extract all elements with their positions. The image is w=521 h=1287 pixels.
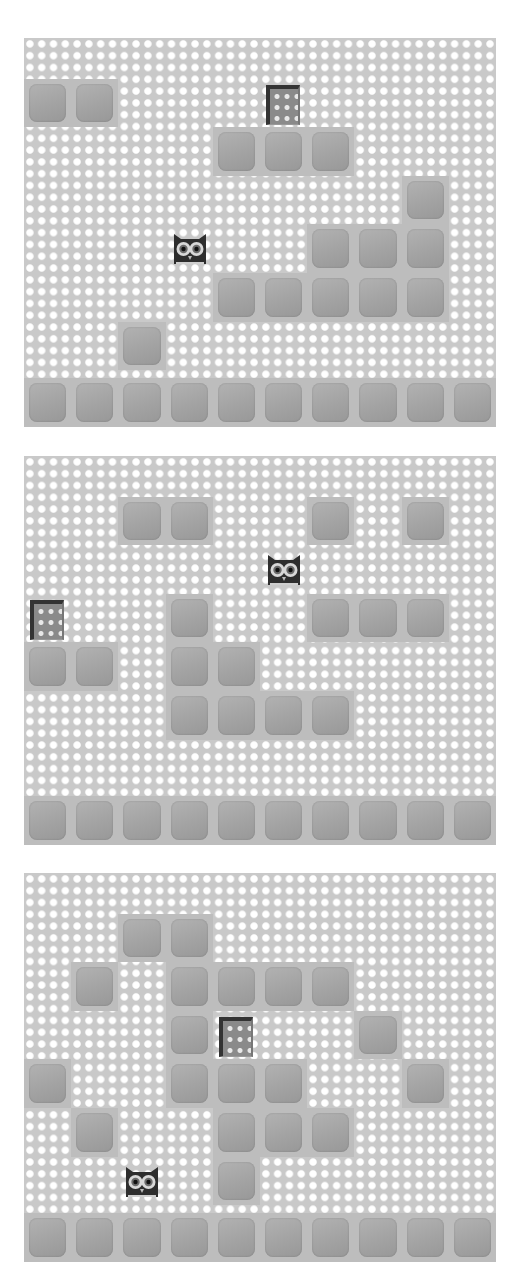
block-tile (166, 691, 213, 740)
block-tile (307, 224, 354, 273)
block-tile (71, 1108, 118, 1157)
floor-tile (24, 1213, 71, 1262)
floor-tile (260, 1213, 307, 1262)
floor-tile (354, 1213, 401, 1262)
block-tile (307, 962, 354, 1011)
block-tile (166, 962, 213, 1011)
owl-icon[interactable] (118, 1157, 165, 1206)
floor-tile (166, 796, 213, 845)
block-tile (307, 1108, 354, 1157)
floor-tile (71, 1213, 118, 1262)
floor-tile (24, 378, 71, 427)
block-tile (354, 1011, 401, 1060)
floor-tile (307, 1213, 354, 1262)
floor-tile (166, 378, 213, 427)
block-tile (71, 642, 118, 691)
block-tile (402, 273, 449, 322)
floor-tile (354, 378, 401, 427)
block-tile (24, 642, 71, 691)
block-tile (402, 224, 449, 273)
floor-tile (449, 1213, 496, 1262)
block-tile (166, 642, 213, 691)
block-tile (402, 1059, 449, 1108)
block-tile (402, 594, 449, 643)
block-tile (260, 273, 307, 322)
floor-tile (71, 796, 118, 845)
puzzle-panel-1 (24, 38, 496, 427)
block-tile (213, 691, 260, 740)
block-tile (118, 914, 165, 963)
puzzle-panel-2 (24, 456, 496, 845)
floor-tile (213, 378, 260, 427)
door-icon (24, 594, 71, 643)
floor-tile (402, 1213, 449, 1262)
floor-tile (402, 378, 449, 427)
door-icon (213, 1011, 260, 1060)
block-tile (307, 497, 354, 546)
floor-tile (24, 796, 71, 845)
door-icon (260, 79, 307, 128)
floor-tile (449, 378, 496, 427)
floor-tile (402, 796, 449, 845)
floor-tile (354, 796, 401, 845)
floor-tile (118, 378, 165, 427)
block-tile (213, 962, 260, 1011)
floor-tile (213, 796, 260, 845)
floor-tile (213, 1213, 260, 1262)
block-tile (118, 497, 165, 546)
block-tile (260, 691, 307, 740)
block-tile (166, 914, 213, 963)
block-tile (307, 594, 354, 643)
block-tile (213, 1059, 260, 1108)
block-tile (213, 273, 260, 322)
block-tile (213, 127, 260, 176)
floor-tile (449, 796, 496, 845)
block-tile (24, 79, 71, 128)
block-tile (307, 127, 354, 176)
block-tile (260, 127, 307, 176)
block-tile (213, 1108, 260, 1157)
owl-icon[interactable] (260, 545, 307, 594)
block-tile (166, 1059, 213, 1108)
block-tile (354, 594, 401, 643)
puzzle-panel-3 (24, 873, 496, 1262)
block-tile (354, 224, 401, 273)
block-tile (71, 79, 118, 128)
block-tile (166, 594, 213, 643)
floor-tile (307, 378, 354, 427)
floor-tile (118, 1213, 165, 1262)
block-tile (166, 497, 213, 546)
block-tile (402, 176, 449, 225)
block-tile (260, 962, 307, 1011)
block-tile (354, 273, 401, 322)
block-tile (307, 273, 354, 322)
block-tile (260, 1108, 307, 1157)
block-tile (307, 691, 354, 740)
block-tile (213, 642, 260, 691)
floor-tile (260, 378, 307, 427)
floor-tile (71, 378, 118, 427)
block-tile (166, 1011, 213, 1060)
block-tile (24, 1059, 71, 1108)
floor-tile (307, 796, 354, 845)
block-tile (71, 962, 118, 1011)
block-tile (260, 1059, 307, 1108)
floor-tile (166, 1213, 213, 1262)
block-tile (213, 1157, 260, 1206)
owl-icon[interactable] (166, 224, 213, 273)
block-tile (402, 497, 449, 546)
floor-tile (118, 796, 165, 845)
block-tile (118, 322, 165, 371)
floor-tile (260, 796, 307, 845)
